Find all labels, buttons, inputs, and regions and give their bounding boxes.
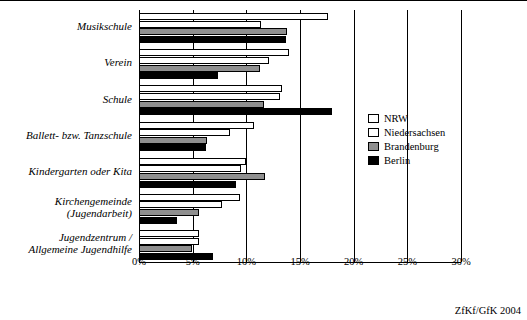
gridline [246, 10, 247, 262]
bar-niedersachsen-2 [139, 93, 280, 100]
legend-label: NRW [384, 113, 408, 124]
gridline [354, 10, 355, 262]
bar-berlin-1 [139, 72, 218, 79]
chart-legend: NRWNiedersachsenBrandenburgBerlin [368, 112, 445, 168]
legend-label: Berlin [384, 155, 410, 166]
x-tick-label: 15% [280, 256, 320, 267]
x-tick-label: 20% [334, 256, 374, 267]
gridline [300, 10, 301, 262]
x-tick-label: 25% [387, 256, 427, 267]
bar-brandenburg-1 [139, 65, 260, 72]
bar-niedersachsen-1 [139, 57, 269, 64]
bar-brandenburg-6 [139, 245, 192, 252]
source-note: ZfKf/GfK 2004 [455, 305, 521, 316]
bar-berlin-2 [139, 108, 332, 115]
legend-swatch-icon [368, 114, 379, 123]
category-label: Schule [0, 94, 132, 106]
bar-berlin-3 [139, 144, 206, 151]
bar-nrw-1 [139, 49, 289, 56]
bar-brandenburg-3 [139, 137, 207, 144]
category-label-line: Kindergarten oder Kita [0, 166, 132, 178]
category-label: Jugendzentrum /Allgemeine Jugendhilfe [0, 232, 132, 255]
legend-label: Brandenburg [384, 141, 439, 152]
bar-nrw-5 [139, 194, 240, 201]
legend-item-niedersachsen: Niedersachsen [368, 126, 445, 139]
x-tick-label: 10% [226, 256, 266, 267]
category-label: Kirchengemeinde(Jugendarbeit) [0, 196, 132, 219]
category-label-line: Ballett- bzw. Tanzschule [0, 130, 132, 142]
bar-berlin-4 [139, 181, 236, 188]
category-label-line: Musikschule [0, 21, 132, 33]
bar-chart: 0%5%10%15%20%25%30% MusikschuleVereinSch… [0, 0, 527, 320]
bar-niedersachsen-3 [139, 129, 230, 136]
top-border-rule [0, 0, 527, 1]
bar-niedersachsen-6 [139, 238, 199, 245]
bar-brandenburg-2 [139, 101, 264, 108]
bar-niedersachsen-0 [139, 21, 261, 28]
category-label-line: (Jugendarbeit) [0, 208, 132, 220]
gridline [461, 10, 462, 262]
legend-label: Niedersachsen [384, 127, 445, 138]
legend-item-brandenburg: Brandenburg [368, 140, 445, 153]
x-tick-label: 30% [441, 256, 481, 267]
category-label-line: Allgemeine Jugendhilfe [0, 244, 132, 256]
bar-berlin-6 [139, 253, 213, 260]
bar-brandenburg-4 [139, 173, 265, 180]
bar-niedersachsen-4 [139, 165, 241, 172]
legend-item-nrw: NRW [368, 112, 445, 125]
category-label: Musikschule [0, 21, 132, 33]
category-label-line: Schule [0, 94, 132, 106]
legend-swatch-icon [368, 142, 379, 151]
bar-niedersachsen-5 [139, 201, 222, 208]
bar-nrw-6 [139, 230, 199, 237]
bar-nrw-4 [139, 158, 246, 165]
bar-nrw-0 [139, 13, 328, 20]
legend-swatch-icon [368, 128, 379, 137]
bar-nrw-3 [139, 122, 254, 129]
legend-swatch-icon [368, 156, 379, 165]
category-label: Kindergarten oder Kita [0, 166, 132, 178]
legend-item-berlin: Berlin [368, 154, 445, 167]
bar-berlin-5 [139, 217, 177, 224]
category-label: Ballett- bzw. Tanzschule [0, 130, 132, 142]
category-label: Verein [0, 57, 132, 69]
bar-brandenburg-0 [139, 28, 287, 35]
bar-brandenburg-5 [139, 209, 199, 216]
category-label-line: Verein [0, 57, 132, 69]
bar-nrw-2 [139, 85, 282, 92]
bar-berlin-0 [139, 36, 286, 43]
